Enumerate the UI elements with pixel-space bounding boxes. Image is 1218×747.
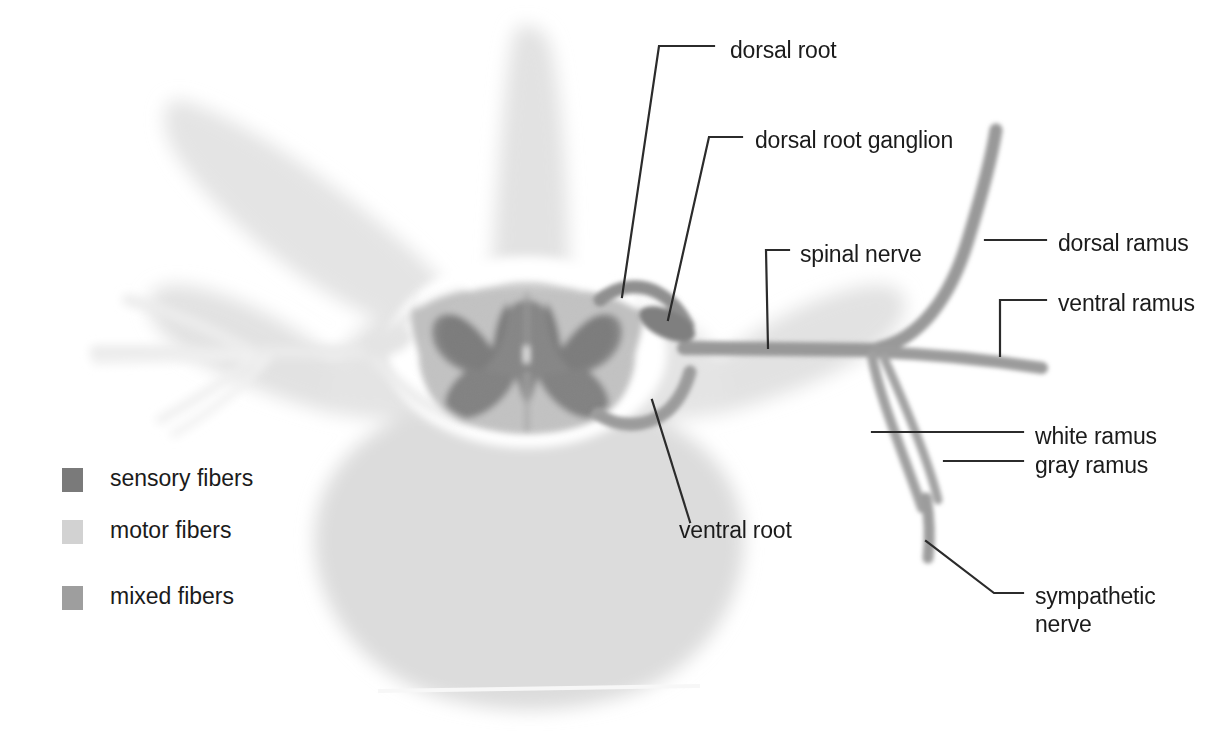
label-spinal-nerve: spinal nerve <box>800 241 922 268</box>
left-ventral-ramus <box>96 356 250 360</box>
label-gray-ramus: gray ramus <box>1035 452 1148 479</box>
legend-label-mixed-fibers: mixed fibers <box>110 583 234 610</box>
ventral-ramus <box>876 352 1042 368</box>
leader-ventral-ramus <box>1000 300 1046 356</box>
label-ventral-root: ventral root <box>679 517 792 544</box>
label-ventral-ramus: ventral ramus <box>1058 290 1195 317</box>
legend-swatch-sensory-fibers <box>62 468 83 492</box>
spinal-nerve-trunk <box>684 348 880 350</box>
leader-sympathetic-nerve <box>926 541 1023 593</box>
label-sympathetic-nerve-line2: nerve <box>1035 611 1092 638</box>
spinal-nerve-diagram: dorsal root dorsal root ganglion spinal … <box>0 0 1218 747</box>
label-dorsal-root-ganglion: dorsal root ganglion <box>755 127 953 154</box>
legend-label-motor-fibers: motor fibers <box>110 517 231 544</box>
label-white-ramus: white ramus <box>1035 423 1157 450</box>
legend-label-sensory-fibers: sensory fibers <box>110 465 253 492</box>
legend-swatch-mixed-fibers <box>62 586 83 610</box>
label-dorsal-ramus: dorsal ramus <box>1058 230 1189 257</box>
leader-dorsal-root-ganglion <box>668 137 742 320</box>
legend-swatch-motor-fibers <box>62 520 83 544</box>
label-dorsal-root: dorsal root <box>730 37 836 64</box>
label-sympathetic-nerve-line1: sympathetic <box>1035 583 1156 610</box>
sympathetic-nerve <box>926 498 929 558</box>
